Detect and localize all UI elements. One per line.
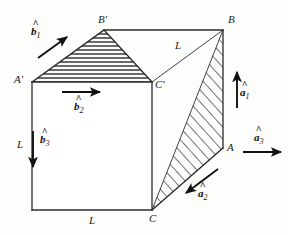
vector-b1-hat: ^ (33, 19, 39, 29)
vector-a2-hat: ^ (200, 181, 206, 191)
vertex-label-b-prime: B' (98, 14, 107, 25)
vector-b2-subscript: 2 (80, 106, 84, 115)
vector-label-b3: b^3 (40, 134, 50, 148)
cube-diagram-svg (0, 0, 288, 235)
vertex-label-c-prime: C' (155, 79, 165, 90)
vector-label-b2: b^2 (74, 101, 84, 115)
vector-b1-subscript: 1 (37, 31, 41, 40)
vector-a1-hat: ^ (242, 80, 248, 90)
vertex-label-c: C (149, 213, 156, 224)
vector-label-b1: b^1 (31, 26, 41, 40)
vector-b3-subscript: 3 (46, 139, 50, 148)
vertex-label-a: A (227, 142, 234, 153)
vector-b1-arrow (38, 37, 67, 58)
vector-b3-hat: ^ (42, 127, 48, 137)
vector-a2-subscript: 2 (204, 193, 208, 202)
vertex-label-a-prime: A' (14, 74, 23, 85)
geometry-figure: A' B' C' B A C L L L b^1 b^2 b^3 a^1 a^2… (0, 0, 288, 235)
vector-a3-hat: ^ (256, 125, 262, 135)
vector-label-a2: a^2 (198, 188, 208, 202)
length-label-left-edge: L (17, 139, 23, 150)
vector-label-a1: a^1 (240, 87, 250, 101)
length-label-bottom-edge: L (89, 215, 95, 226)
front-square-face (32, 82, 152, 210)
vector-b2-hat: ^ (76, 94, 82, 104)
top-hatched-triangle (32, 30, 152, 82)
vector-a1-subscript: 1 (246, 92, 250, 101)
vector-label-a3: a^3 (254, 132, 264, 146)
length-label-diagonal: L (175, 40, 181, 51)
vector-a3-subscript: 3 (260, 137, 264, 146)
vertex-label-b: B (228, 14, 235, 25)
